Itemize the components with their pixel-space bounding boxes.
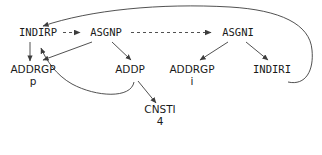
edge-addp-cnsti	[138, 81, 156, 103]
node-addrgp-i-sub: i	[169, 76, 214, 87]
node-addrgp-p-sub: p	[10, 76, 55, 87]
node-indiri-op: INDIRI	[253, 64, 291, 75]
node-asgni[interactable]: ASGNI	[222, 27, 254, 38]
node-addrgp-p-op: ADDRGP	[10, 64, 55, 75]
edge-asgni-addrgp-i	[200, 42, 228, 60]
figure-caption	[0, 147, 322, 155]
node-addp-op: ADDP	[115, 64, 145, 75]
edge-asgni-indiri	[246, 42, 268, 60]
node-asgnp[interactable]: ASGNP	[90, 27, 122, 38]
node-addrgp-i[interactable]: ADDRGP i	[169, 64, 214, 87]
diagram-canvas: INDIRP ASGNP ASGNI ADDRGP p ADDP ADDRGP …	[0, 0, 322, 155]
node-cnsti-sub: 4	[144, 116, 175, 127]
node-asgni-op: ASGNI	[222, 27, 254, 38]
node-indirp-op: INDIRP	[19, 27, 57, 38]
node-addrgp-i-op: ADDRGP	[169, 64, 214, 75]
edge-asgnp-addp	[112, 42, 131, 60]
node-cnsti-op: CNSTI	[144, 104, 175, 115]
node-indirp[interactable]: INDIRP	[19, 27, 57, 38]
node-cnsti[interactable]: CNSTI 4	[144, 104, 175, 127]
node-asgnp-op: ASGNP	[90, 27, 122, 38]
edge-asgnp-addrgp-p	[43, 42, 92, 60]
node-addp[interactable]: ADDP	[115, 64, 145, 75]
node-addrgp-p[interactable]: ADDRGP p	[10, 64, 55, 87]
node-indiri[interactable]: INDIRI	[253, 64, 291, 75]
